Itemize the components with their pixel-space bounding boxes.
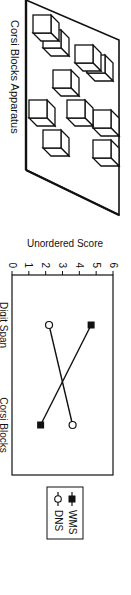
- series-line-dns: [49, 325, 73, 425]
- block-cubes: [29, 15, 119, 166]
- square-marker-icon: [88, 322, 95, 329]
- x-category-label: Digit Span: [0, 302, 9, 348]
- y-axis-label: Unordered Score: [27, 238, 104, 249]
- circle-marker-icon: [46, 322, 53, 329]
- legend-label: WMS: [67, 510, 78, 535]
- y-tick-label: 2: [40, 262, 51, 268]
- series-line-wms: [41, 325, 92, 425]
- y-tick-label: 6: [108, 262, 119, 268]
- y-axis-ticks: 0123456: [7, 262, 119, 275]
- y-tick-label: 0: [7, 262, 18, 268]
- plot-frame: [12, 275, 113, 475]
- y-tick-label: 1: [23, 262, 34, 268]
- apparatus-caption: Corsi Blocks Apparatus: [9, 20, 21, 134]
- circle-marker-icon: [69, 422, 76, 429]
- y-tick-label: 5: [91, 262, 102, 268]
- x-axis-labels: Digit SpanCorsi Blocks: [0, 302, 9, 453]
- y-tick-label: 4: [74, 262, 85, 268]
- legend-circle-icon: [55, 496, 62, 503]
- x-category-label: Corsi Blocks: [0, 397, 9, 453]
- legend-label: DNS: [53, 510, 64, 531]
- data-series: [37, 322, 95, 429]
- unordered-score-chart: Unordered Score 0123456 Digit SpanCorsi …: [0, 235, 131, 595]
- legend-square-icon: [69, 496, 76, 503]
- square-marker-icon: [37, 422, 44, 429]
- y-tick-label: 3: [57, 262, 68, 268]
- legend: WMSDNS: [47, 487, 83, 539]
- figure-canvas: Corsi Blocks Apparatus Unordered Score 0…: [0, 0, 131, 595]
